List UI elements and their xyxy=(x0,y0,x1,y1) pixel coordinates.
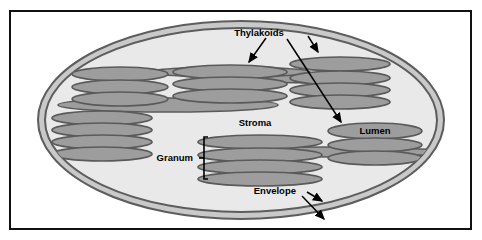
figure-stage: Thylakoids Stroma Lumen Granum Envelope xyxy=(0,0,482,240)
label-envelope: Envelope xyxy=(254,185,296,196)
label-thylakoids: Thylakoids xyxy=(234,27,284,38)
granum-mid-lower xyxy=(198,135,322,186)
granum-left-upper xyxy=(72,67,168,106)
label-stroma: Stroma xyxy=(239,117,272,128)
chloroplast-diagram: Thylakoids Stroma Lumen Granum Envelope xyxy=(0,0,482,240)
label-lumen: Lumen xyxy=(359,125,390,136)
label-granum: Granum xyxy=(157,152,193,163)
granum-mid-upper xyxy=(173,65,287,103)
granum-right-upper xyxy=(290,57,390,109)
